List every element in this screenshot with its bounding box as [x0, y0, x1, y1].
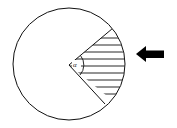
circle-outline: [13, 8, 125, 120]
arrow-left-icon: [136, 46, 164, 62]
sector-diagram: α: [0, 0, 177, 128]
angle-label: α: [73, 61, 77, 69]
